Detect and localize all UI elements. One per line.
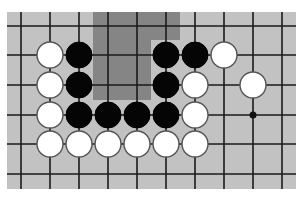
black-stone bbox=[153, 72, 179, 98]
white-stone bbox=[37, 102, 63, 128]
black-stone bbox=[66, 42, 92, 68]
black-stone bbox=[182, 42, 208, 68]
star-points bbox=[250, 112, 257, 119]
white-stone bbox=[211, 42, 237, 68]
white-stone bbox=[124, 131, 150, 157]
black-stone bbox=[153, 102, 179, 128]
white-stone bbox=[182, 72, 208, 98]
black-stone bbox=[153, 42, 179, 68]
white-stone bbox=[182, 131, 208, 157]
star-point-icon bbox=[250, 112, 257, 119]
white-stone bbox=[153, 131, 179, 157]
black-stone bbox=[66, 72, 92, 98]
white-stone bbox=[240, 72, 266, 98]
white-stone bbox=[37, 72, 63, 98]
white-stone bbox=[66, 131, 92, 157]
go-board-diagram bbox=[0, 0, 305, 202]
white-stone bbox=[37, 131, 63, 157]
white-stone bbox=[182, 102, 208, 128]
black-stone bbox=[95, 102, 121, 128]
white-stone bbox=[37, 42, 63, 68]
white-stone bbox=[95, 131, 121, 157]
black-stone bbox=[124, 102, 150, 128]
black-stone bbox=[66, 102, 92, 128]
